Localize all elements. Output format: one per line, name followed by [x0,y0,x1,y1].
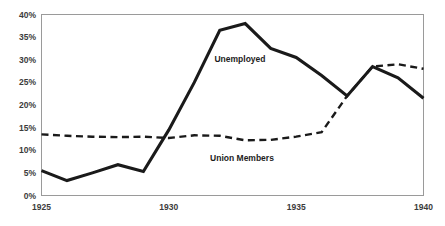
y-tick-label-25: 25% [19,77,36,87]
x-tick-label-1935: 1935 [287,202,306,212]
y-tick-label-20: 20% [19,100,36,110]
y-tick-label-35: 35% [19,32,36,42]
y-tick-label-15: 15% [19,123,36,133]
line-chart: 0%5%10%15%20%25%30%35%40% 19251930193519… [0,0,445,226]
y-tick-label-5: 5% [24,168,37,178]
series-label-unemployed: Unemployed [214,54,265,64]
chart-container: 0%5%10%15%20%25%30%35%40% 19251930193519… [0,0,445,226]
y-tick-label-30: 30% [19,55,36,65]
x-tick-label-1930: 1930 [159,202,178,212]
y-tick-label-40: 40% [19,10,36,20]
x-tick-label-1940: 1940 [414,202,433,212]
y-tick-label-0: 0% [24,191,37,201]
series-label-union-members: Union Members [210,153,274,163]
y-tick-label-10: 10% [19,145,36,155]
x-tick-label-1925: 1925 [32,202,51,212]
plot-area-frame [42,15,424,196]
